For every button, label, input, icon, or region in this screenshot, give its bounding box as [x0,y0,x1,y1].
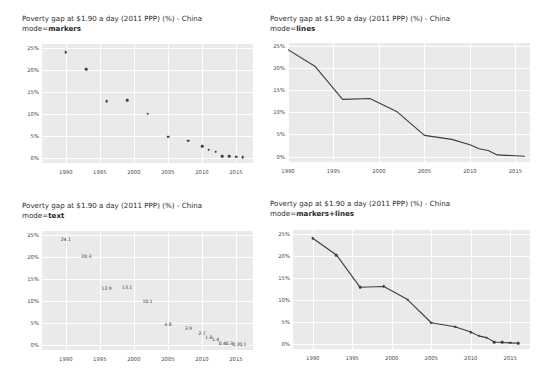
panel-markers-title-line2: mode=markers [22,24,202,34]
data-point-label: 12.9 [102,286,112,291]
x-axis-tick-label: 1990 [306,355,319,361]
data-point-marker [201,145,204,148]
data-point-marker [469,331,472,334]
panel-markers-lines-title: Poverty gap at $1.90 a day (2011 PPP) (%… [270,199,450,218]
panel-lines: Poverty gap at $1.90 a day (2011 PPP) (%… [265,0,543,190]
data-point-marker [359,286,362,289]
mode-value: lines [296,24,315,33]
data-point-marker [501,341,504,344]
data-point-marker [477,335,480,338]
gridline-vertical [134,44,135,163]
y-axis-tick-label: 0% [20,342,39,348]
y-axis-tick-label: 25% [271,231,290,237]
gridline-horizontal [42,136,253,137]
data-point-marker [493,341,496,344]
gridline-horizontal [42,158,253,159]
data-point-marker [228,155,231,158]
data-point-marker [517,342,520,345]
mode-prefix: mode= [270,24,296,33]
data-point-marker [207,149,210,152]
figure-text: 24.120.312.913.110.14.83.92.71.81.40.40.… [42,231,253,350]
data-point-marker [235,156,238,159]
data-point-marker [214,150,217,153]
x-axis-tick-label: 2010 [195,356,208,362]
y-axis-tick-label: 20% [266,65,285,71]
data-point-marker [406,298,409,301]
y-axis-tick-label: 15% [271,275,290,281]
y-axis-tick-label: 5% [271,319,290,325]
y-axis-tick-label: 25% [266,43,285,49]
x-axis-tick-label: 2000 [372,168,385,174]
x-axis-tick-label: 2005 [161,169,174,175]
x-axis-tick-label: 1995 [93,356,106,362]
data-point-marker [65,51,68,54]
data-point-marker [221,155,224,158]
gridline-horizontal [42,235,253,236]
data-point-marker [383,285,386,288]
x-axis-tick-label: 2010 [195,169,208,175]
figure-markers-lines: 0%5%10%15%20%25%199019952000200520102015 [293,230,530,349]
plot-area: 24.120.312.913.110.14.83.92.71.81.40.40.… [42,231,253,350]
data-point-marker [126,99,129,102]
y-axis-tick-label: 0% [20,155,39,161]
gridline-vertical [168,231,169,350]
panel-markers-lines-title-line1: Poverty gap at $1.90 a day (2011 PPP) (%… [270,199,450,209]
x-axis-tick-label: 2005 [425,355,438,361]
x-axis-tick-label: 2015 [229,356,242,362]
y-axis-tick-label: 5% [266,131,285,137]
gridline-vertical [66,231,67,350]
series-line [288,43,530,162]
data-point-label: 24.1 [61,237,71,242]
x-axis-tick-label: 2010 [464,355,477,361]
x-axis-tick-label: 2015 [504,355,517,361]
data-point-marker [311,237,314,240]
x-axis-tick-label: 1990 [59,356,72,362]
data-point-marker [241,156,244,159]
data-point-label: 13.1 [122,285,132,290]
data-point-marker [430,321,433,324]
data-point-label: 4.8 [164,321,171,326]
data-point-marker [187,139,190,142]
x-axis-tick-label: 2010 [463,168,476,174]
y-axis-tick-label: 15% [20,89,39,95]
y-axis-tick-label: 5% [20,133,39,139]
x-axis-tick-label: 2000 [127,169,140,175]
data-point-label: 20.3 [81,253,91,258]
figure-markers: 0%5%10%15%20%25%199019952000200520102015 [42,44,253,163]
y-axis-tick-label: 15% [20,276,39,282]
panel-text-title-line1: Poverty gap at $1.90 a day (2011 PPP) (%… [22,201,202,211]
x-axis-tick-label: 2015 [509,168,522,174]
y-axis-tick-label: 20% [20,67,39,73]
data-point-label: 10.1 [142,298,152,303]
gridline-vertical [236,44,237,163]
data-point-marker [167,135,170,138]
data-point-marker [85,68,88,71]
y-axis-tick-label: 15% [266,87,285,93]
x-axis-tick-label: 2000 [127,356,140,362]
panel-markers-lines: Poverty gap at $1.90 a day (2011 PPP) (%… [265,190,543,380]
x-axis-tick-label: 2005 [418,168,431,174]
panel-markers: Poverty gap at $1.90 a day (2011 PPP) (%… [0,0,265,190]
x-axis-tick-label: 2000 [385,355,398,361]
y-axis-tick-label: 20% [271,253,290,259]
mode-value: markers [48,24,81,33]
gridline-horizontal [42,279,253,280]
y-axis-tick-label: 25% [20,45,39,51]
y-axis-tick-label: 10% [20,111,39,117]
gridline-vertical [168,44,169,163]
panel-lines-title: Poverty gap at $1.90 a day (2011 PPP) (%… [270,14,450,33]
y-axis-tick-label: 0% [266,154,285,160]
x-axis-tick-label: 2005 [161,356,174,362]
y-axis-tick-label: 10% [266,109,285,115]
plot-area [288,43,530,162]
gridline-horizontal [42,323,253,324]
gridline-horizontal [42,48,253,49]
data-point-marker [335,254,338,257]
data-point-marker [454,325,457,328]
panel-text-title: Poverty gap at $1.90 a day (2011 PPP) (%… [22,201,202,220]
gridline-vertical [100,44,101,163]
y-axis-tick-label: 20% [20,254,39,260]
x-axis-tick-label: 2015 [229,169,242,175]
gridline-horizontal [42,257,253,258]
figure-lines: 0%5%10%15%20%25%199019952000200520102015 [288,43,530,162]
